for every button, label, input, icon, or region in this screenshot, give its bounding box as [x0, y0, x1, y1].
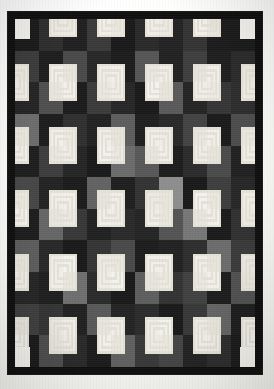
log-light-vertical: [147, 209, 149, 222]
log-light-horizontal: [49, 64, 63, 67]
log-light-horizontal: [207, 254, 221, 257]
log-dark-horizontal: [47, 227, 63, 230]
quilt-block: [87, 240, 111, 272]
log-dark-vertical: [95, 335, 97, 353]
log-light-vertical: [103, 209, 105, 217]
log-light-vertical: [193, 193, 195, 209]
log-dark-edge-horizontal: [159, 364, 183, 367]
log-dark-edge-horizontal: [63, 114, 87, 117]
log-dark-horizontal: [207, 37, 223, 40]
log-dark-vertical: [125, 209, 127, 227]
log-dark-edge-vertical: [39, 304, 41, 336]
log-light-vertical: [199, 138, 201, 146]
log-dark-edge-horizontal: [39, 364, 63, 367]
log-dark-edge-vertical: [135, 272, 137, 304]
quilt-block: [231, 51, 255, 83]
log-dark-edge-horizontal: [159, 114, 183, 117]
log-light-horizontal: [49, 254, 63, 257]
log-dark-edge-vertical: [87, 272, 89, 304]
log-light-vertical: [245, 209, 247, 220]
log-light-vertical: [197, 198, 199, 209]
log-light-vertical: [99, 19, 101, 32]
quilt-block: [207, 177, 231, 209]
log-light-vertical: [97, 256, 99, 272]
quilt-block: [159, 335, 183, 367]
log-light-horizontal: [199, 72, 207, 75]
log-dark-edge-horizontal: [159, 177, 183, 180]
log-light-vertical: [51, 259, 53, 272]
log-light-horizontal: [159, 66, 171, 69]
log-light-vertical: [193, 66, 195, 82]
log-dark-horizontal: [15, 227, 31, 230]
log-dark-horizontal: [143, 227, 159, 230]
log-light-horizontal: [15, 132, 25, 135]
quilt-block: [183, 272, 207, 304]
quilt-block: [207, 335, 231, 367]
log-light-horizontal: [197, 69, 207, 72]
log-dark-edge-vertical: [39, 177, 41, 209]
log-light-horizontal: [159, 320, 171, 323]
log-dark-edge-vertical: [231, 304, 233, 336]
log-dark-vertical: [125, 335, 127, 353]
log-dark-vertical: [173, 209, 175, 227]
quilt-block: [183, 82, 207, 114]
log-dark-horizontal: [239, 101, 255, 104]
quilt-block: [231, 177, 255, 209]
log-light-vertical: [197, 272, 199, 283]
log-dark-horizontal: [47, 251, 63, 254]
log-dark-edge-vertical: [183, 240, 185, 272]
log-dark-vertical: [173, 317, 175, 335]
log-dark-edge-horizontal: [231, 240, 255, 243]
quilt-block: [135, 51, 159, 83]
log-light-vertical: [97, 193, 99, 209]
log-light-horizontal: [207, 132, 217, 135]
log-dark-edge-vertical: [135, 335, 137, 367]
log-light-vertical: [199, 74, 201, 82]
log-dark-vertical: [143, 19, 145, 37]
log-light-horizontal: [243, 320, 255, 323]
log-dark-edge-horizontal: [135, 364, 159, 367]
log-light-vertical: [241, 272, 243, 288]
log-dark-horizontal: [15, 101, 31, 104]
log-light-vertical: [195, 196, 197, 209]
log-dark-edge-horizontal: [231, 177, 255, 180]
log-dark-vertical: [221, 82, 223, 100]
log-light-horizontal: [195, 130, 207, 133]
log-dark-horizontal: [111, 227, 127, 230]
log-light-vertical: [151, 264, 153, 272]
log-light-horizontal: [249, 138, 255, 141]
log-dark-edge-vertical: [183, 82, 185, 114]
quilt-block-grid: [15, 19, 255, 367]
log-light-horizontal: [15, 259, 25, 262]
log-light-vertical: [247, 74, 249, 82]
log-light-horizontal: [159, 262, 167, 265]
log-light-horizontal: [207, 193, 219, 196]
log-dark-horizontal: [47, 291, 63, 294]
quilt-block: [111, 272, 135, 304]
quilt-block: [15, 272, 39, 304]
log-dark-vertical: [191, 335, 193, 353]
log-light-vertical: [55, 82, 57, 90]
log-dark-edge-horizontal: [207, 51, 231, 54]
log-light-horizontal: [111, 135, 119, 138]
log-dark-edge-horizontal: [39, 51, 63, 54]
log-light-vertical: [49, 130, 51, 146]
log-light-vertical: [197, 72, 199, 83]
log-light-vertical: [149, 209, 151, 220]
log-light-vertical: [199, 19, 201, 27]
quilt-block: [183, 304, 207, 336]
log-light-vertical: [145, 256, 147, 272]
log-light-vertical: [195, 335, 197, 348]
log-light-horizontal: [199, 262, 207, 265]
log-light-vertical: [53, 209, 55, 220]
log-light-vertical: [199, 335, 201, 343]
quilt-block: [135, 272, 159, 304]
quilt-block: [15, 114, 39, 146]
log-light-horizontal: [63, 325, 71, 328]
log-light-vertical: [103, 19, 105, 27]
log-light-vertical: [147, 82, 149, 95]
log-dark-edge-horizontal: [63, 364, 87, 367]
log-light-vertical: [55, 272, 57, 280]
log-dark-horizontal: [95, 37, 111, 40]
log-light-horizontal: [63, 196, 73, 199]
